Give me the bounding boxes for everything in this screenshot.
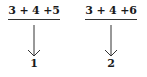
down-arrow-icon [104,25,118,57]
mapping-right: 3 + 4 +6 2 [85,4,137,70]
result-right: 2 [85,58,137,70]
result-left: 1 [8,58,60,70]
down-arrow-icon [27,25,41,57]
underline-left [8,19,60,20]
underline-right [85,19,137,20]
mapping-left: 3 + 4 +5 1 [8,4,60,70]
expression-left: 3 + 4 +5 [8,4,60,17]
expression-right: 3 + 4 +6 [85,4,137,17]
